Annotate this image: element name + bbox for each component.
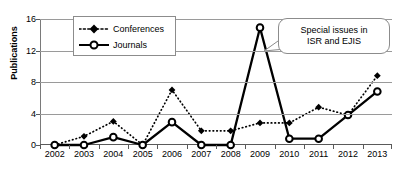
y-tick-label: 8 [14, 77, 36, 87]
callout-line-1: Special issues in [300, 25, 367, 36]
x-tick-label: 2002 [45, 149, 65, 159]
data-point-journals [286, 135, 293, 142]
data-point-journals [139, 142, 146, 149]
x-tick-label: 2009 [250, 149, 270, 159]
chart-legend: Conferences Journals [73, 16, 176, 56]
publications-line-chart: Publications 0481216 2002200320042005200… [0, 0, 398, 176]
y-tick-label: 16 [14, 14, 36, 24]
x-tick-label: 2004 [103, 149, 123, 159]
y-tick-label: 4 [14, 109, 36, 119]
series-line-conferences [55, 76, 378, 145]
x-tick-label: 2012 [338, 149, 358, 159]
annotation-callout: Special issues in ISR and EJIS [278, 18, 390, 54]
y-tick-mark [36, 82, 40, 83]
legend-label-conferences: Conferences [113, 24, 164, 34]
legend-item-journals: Journals [79, 38, 147, 52]
x-tick-label: 2007 [191, 149, 211, 159]
legend-conferences-marker-icon [79, 23, 109, 35]
x-tick-label: 2003 [74, 149, 94, 159]
data-point-journals [110, 134, 117, 141]
gridline [40, 114, 392, 115]
data-point-journals [51, 142, 58, 149]
legend-label-journals: Journals [113, 40, 147, 50]
callout-line-2: ISR and EJIS [307, 36, 361, 47]
data-point-journals [315, 135, 322, 142]
data-point-journals [257, 24, 264, 31]
y-tick-label: 12 [14, 46, 36, 56]
data-point-conferences [374, 72, 381, 79]
data-point-journals [198, 142, 205, 149]
legend-item-conferences: Conferences [79, 22, 164, 36]
y-tick-label: 0 [14, 140, 36, 150]
data-point-journals [81, 142, 88, 149]
y-axis-tick-labels: 0481216 [0, 0, 36, 176]
x-tick-label: 2010 [279, 149, 299, 159]
legend-journals-marker-icon [79, 39, 109, 51]
y-tick-mark [36, 19, 40, 20]
data-point-journals [374, 88, 381, 95]
y-tick-mark [36, 114, 40, 115]
data-point-journals [227, 142, 234, 149]
x-tick-label: 2006 [162, 149, 182, 159]
y-tick-mark [36, 51, 40, 52]
x-tick-label: 2013 [367, 149, 387, 159]
data-point-conferences [81, 133, 88, 140]
data-point-conferences [315, 104, 322, 111]
gridline [40, 82, 392, 83]
x-tick-label: 2008 [221, 149, 241, 159]
data-point-journals [169, 119, 176, 126]
x-tick-label: 2005 [133, 149, 153, 159]
x-axis-tick-labels: 2002200320042005200620072008200920102011… [40, 149, 392, 165]
data-point-conferences [257, 120, 264, 127]
x-tick-label: 2011 [309, 149, 328, 159]
